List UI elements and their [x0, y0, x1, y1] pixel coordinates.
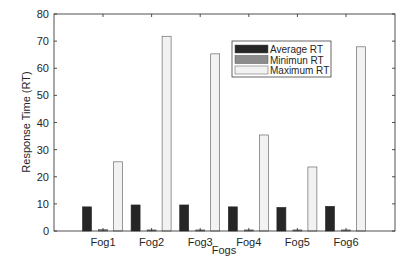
bar-chart: 01020304050607080Fog1Fog2Fog3Fog4Fog5Fog…: [0, 0, 415, 272]
bar-average-rt-fog4: [228, 207, 237, 231]
x-tick-label: Fog1: [90, 236, 115, 248]
y-tick-label: 20: [37, 171, 49, 183]
x-tick-label: Fog3: [188, 236, 213, 248]
x-tick-label: Fog4: [236, 236, 261, 248]
plot-area: [54, 14, 395, 231]
bar-average-rt-fog6: [326, 206, 335, 231]
legend-swatch: [235, 56, 268, 64]
x-tick-label: Fog2: [139, 236, 164, 248]
bar-maximum-rt-fog5: [308, 167, 317, 231]
legend-label: Minimun RT: [270, 55, 324, 66]
bar-maximum-rt-fog2: [162, 36, 171, 231]
y-tick-label: 70: [37, 35, 49, 47]
bar-average-rt-fog3: [180, 205, 189, 231]
bar-maximum-rt-fog6: [357, 47, 366, 231]
x-tick-label: Fog6: [333, 236, 358, 248]
bar-maximum-rt-fog3: [211, 54, 220, 231]
y-tick-label: 30: [37, 144, 49, 156]
bar-average-rt-fog1: [83, 207, 92, 231]
legend: Average RTMinimun RTMaximum RT: [232, 41, 331, 77]
y-tick-label: 10: [37, 198, 49, 210]
x-tick-label: Fog5: [285, 236, 310, 248]
y-tick-label: 40: [37, 117, 49, 129]
bar-average-rt-fog2: [131, 205, 140, 231]
bar-maximum-rt-fog1: [114, 162, 123, 231]
x-axis-label: Fogs: [212, 244, 237, 256]
legend-label: Maximum RT: [270, 65, 329, 76]
legend-label: Average RT: [270, 44, 323, 55]
y-tick-label: 80: [37, 8, 49, 20]
legend-swatch: [235, 66, 268, 74]
bar-maximum-rt-fog4: [259, 135, 268, 231]
bar-average-rt-fog5: [277, 207, 286, 231]
legend-swatch: [235, 45, 268, 53]
y-tick-label: 0: [43, 225, 49, 237]
y-axis-label: Response Time (RT): [20, 71, 32, 172]
y-tick-label: 50: [37, 89, 49, 101]
y-tick-label: 60: [37, 62, 49, 74]
